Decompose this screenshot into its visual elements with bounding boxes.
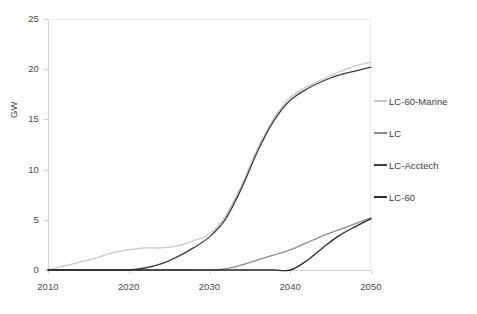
line-chart: GW 0510152025 20102020203020402050 LC-60… — [0, 0, 477, 314]
legend-item-label: LC-60-Marine — [389, 96, 448, 107]
y-tick-label: 0 — [17, 264, 39, 275]
legend-item[interactable]: LC-60-Marine — [374, 85, 477, 117]
x-tick-label: 2010 — [28, 281, 68, 292]
y-tick-label: 25 — [17, 13, 39, 24]
legend-item[interactable]: LC — [374, 117, 477, 149]
series-line — [48, 67, 371, 270]
x-tick-label: 2050 — [351, 281, 391, 292]
series-line — [48, 219, 371, 271]
legend-item-label: LC-60 — [389, 192, 415, 203]
legend-item[interactable]: LC-60 — [374, 181, 477, 213]
legend-item-label: LC — [389, 128, 401, 139]
y-tick-label: 10 — [17, 164, 39, 175]
y-tick-label: 5 — [17, 214, 39, 225]
legend-item[interactable]: LC-Acctech — [374, 149, 477, 181]
x-tick-label: 2040 — [270, 281, 310, 292]
axis-lines — [48, 19, 371, 271]
x-tick-label: 2020 — [109, 281, 149, 292]
y-tick-label: 20 — [17, 63, 39, 74]
legend-swatch-icon — [374, 132, 387, 134]
series-lines — [48, 62, 371, 271]
series-line — [48, 218, 371, 270]
y-tick-label: 15 — [17, 113, 39, 124]
legend-swatch-icon — [374, 164, 387, 166]
x-tick-label: 2030 — [190, 281, 230, 292]
series-line — [48, 62, 371, 270]
legend-item-label: LC-Acctech — [389, 160, 439, 171]
legend-swatch-icon — [374, 196, 387, 198]
chart-legend: LC-60-MarineLCLC-AcctechLC-60 — [374, 85, 477, 213]
legend-swatch-icon — [374, 100, 387, 102]
